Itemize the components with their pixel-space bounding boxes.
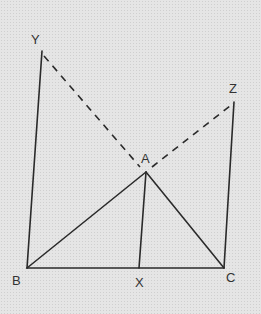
label-A: A [141,151,150,166]
label-B: B [12,273,21,288]
label-Z: Z [229,81,237,96]
segment-BA [27,172,146,268]
dashed-segment-AZ [152,106,230,167]
diagram-svg: Y Z A B X C [0,0,261,314]
label-Y: Y [31,32,40,47]
label-X: X [135,275,144,290]
segment-YB [27,51,42,268]
segment-ZC [224,102,234,268]
segment-AC [146,172,224,268]
label-C: C [226,270,235,285]
geometry-diagram: Y Z A B X C [0,0,261,314]
segment-AX [139,172,146,268]
dashed-segment-YA [44,56,140,167]
